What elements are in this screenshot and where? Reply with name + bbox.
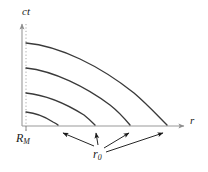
vertical-axis-label: ct [22, 6, 30, 17]
trajectory-curves [26, 43, 167, 125]
r0-arrow-4 [106, 133, 163, 152]
r0-label-subscript: 0 [98, 153, 102, 162]
rm-label-subscript: M [23, 137, 30, 146]
spacetime-diagram-figure: ct r RM r0 [0, 0, 208, 172]
curve-3 [26, 93, 95, 125]
r0-arrow-2 [96, 133, 98, 145]
curve-4 [26, 112, 58, 125]
diagram-canvas [0, 0, 208, 172]
r0-arrow-1 [63, 133, 94, 146]
r0-label: r0 [93, 148, 102, 162]
horizontal-axis-label: r [190, 115, 194, 126]
rm-label: RM [16, 132, 30, 146]
curve-1 [26, 43, 167, 125]
r0-annotation-arrows [63, 133, 163, 152]
